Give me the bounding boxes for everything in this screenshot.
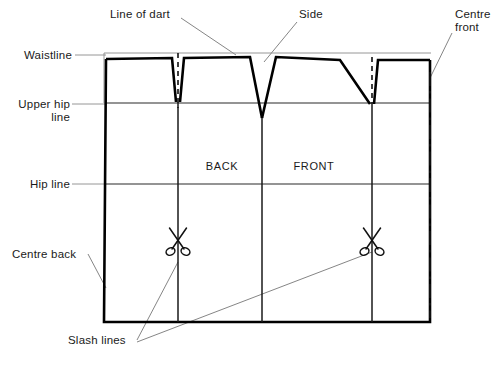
label-centre-front-2: front: [455, 21, 480, 33]
label-slash-lines: Slash lines: [68, 334, 126, 346]
label-piece-back: BACK: [206, 160, 238, 172]
pattern-diagram-svg: Waistline Upper hip line Hip line Centre…: [0, 0, 498, 370]
leader-slash-front: [137, 252, 372, 342]
pattern-diagram-root: Waistline Upper hip line Hip line Centre…: [0, 0, 498, 370]
outline-waist-back-left: [106, 58, 176, 102]
label-hip-line: Hip line: [30, 178, 70, 190]
label-upper-hip-line-2: line: [51, 111, 70, 123]
label-piece-front: FRONT: [294, 160, 335, 172]
outline-waist-front-left: [262, 57, 370, 118]
outline-waist-front-right: [374, 60, 430, 104]
pattern-outline: [104, 57, 430, 322]
leader-lines: [88, 18, 452, 342]
construction-guides: [104, 53, 431, 184]
leader-centre-front: [430, 33, 452, 78]
label-waistline: Waistline: [24, 49, 72, 61]
label-centre-back: Centre back: [12, 248, 76, 260]
outline-waist-back-right: [180, 57, 262, 118]
label-centre-front-1: Centre: [455, 8, 491, 20]
label-side: Side: [299, 8, 323, 20]
label-upper-hip-line-1: Upper hip: [18, 98, 70, 110]
label-line-of-dart: Line of dart: [110, 8, 171, 20]
left-label-connectors: [72, 55, 106, 184]
leader-line-of-dart: [181, 18, 236, 55]
